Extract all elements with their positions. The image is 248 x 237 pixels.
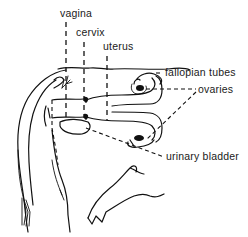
fallopian-tube-upper [134, 73, 162, 84]
vulva-branch [62, 76, 72, 88]
udder-outline [88, 166, 144, 218]
vagina-upper-wall [52, 99, 84, 100]
label-urinary-bladder: urinary bladder [166, 151, 239, 162]
leader-ovaries-lower [146, 92, 196, 140]
uterine-horn-lower [86, 117, 155, 140]
vagina-lower-wall [52, 117, 84, 118]
fallopian-tube-lower [128, 140, 154, 147]
ovary-lower [134, 135, 144, 141]
label-fallopian-tubes: fallopian tubes [165, 67, 236, 78]
hind-leg [18, 150, 30, 226]
urinary-bladder-outline [60, 119, 90, 134]
ovary-upper [136, 85, 144, 91]
anatomy-diagram: vagina cervix uterus fallopian tubes ova… [0, 0, 248, 237]
body-inner-outline [29, 80, 56, 205]
label-cervix: cervix [76, 27, 105, 38]
rectum-outline [45, 106, 51, 126]
diagram-drawing [0, 0, 248, 237]
label-ovaries: ovaries [198, 84, 233, 95]
uterine-horn-upper [86, 78, 155, 100]
label-uterus: uterus [103, 41, 133, 52]
label-vagina: vagina [60, 8, 92, 19]
